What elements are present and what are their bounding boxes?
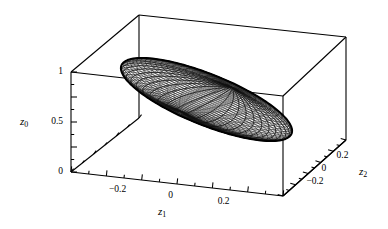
tick-label-z0-top: 1: [58, 67, 63, 77]
axis-label-z1-subscript: 1: [162, 210, 166, 219]
tick-label-z1-negative: −0.2: [109, 185, 126, 195]
tick-label-z1-positive: 0.2: [218, 197, 230, 207]
axis-label-z0: z0: [20, 116, 28, 129]
tick-label-z0-bottom: 0: [58, 167, 63, 177]
tick-label-z2-positive: 0.2: [337, 151, 349, 161]
axis-label-z1: z1: [158, 206, 166, 219]
tick-label-z0-mid: 0.5: [51, 117, 63, 127]
tick-label-z2-zero: 0: [322, 164, 327, 174]
axis-label-z0-subscript: 0: [24, 120, 28, 129]
plot-canvas: [0, 0, 388, 229]
tick-label-z2-negative: −0.2: [306, 177, 323, 187]
ellipsoid-wireframe-surface: [121, 58, 292, 141]
plot-figure: 1 0.5 0 −0.2 0 0.2 −0.2 0 0.2 z0 z1 z2: [0, 0, 388, 229]
tick-label-z1-zero: 0: [168, 191, 173, 201]
axis-label-z2-subscript: 2: [363, 170, 367, 179]
axis-label-z2: z2: [359, 166, 367, 179]
